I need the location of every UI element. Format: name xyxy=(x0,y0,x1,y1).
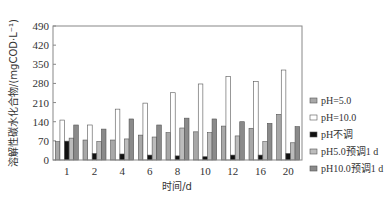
x-axis-ticks: 1246810121620 xyxy=(64,165,294,177)
x-tick-label: 8 xyxy=(175,165,181,177)
bar xyxy=(277,114,282,160)
bar xyxy=(129,119,134,160)
x-axis-label: 时间/d xyxy=(162,180,192,192)
legend-label: pH不调 xyxy=(321,129,353,140)
bar xyxy=(157,125,162,160)
legend-swatch xyxy=(310,115,317,120)
bar xyxy=(263,142,268,160)
bar xyxy=(97,142,102,160)
bar xyxy=(254,82,259,160)
bar xyxy=(286,153,291,160)
bar xyxy=(60,120,65,160)
y-tick-label: 280 xyxy=(33,77,50,89)
bar xyxy=(69,138,74,160)
x-tick-label: 12 xyxy=(227,165,238,177)
x-tick-label: 6 xyxy=(147,165,153,177)
y-tick-label: 350 xyxy=(33,58,50,70)
legend-label: pH5.0预调1 d xyxy=(321,146,378,157)
y-tick-label: 490 xyxy=(33,20,50,32)
x-tick-label: 20 xyxy=(283,165,295,177)
y-tick-label: 140 xyxy=(33,116,50,128)
bar xyxy=(249,128,254,160)
bar xyxy=(198,84,203,160)
bar xyxy=(88,125,93,160)
bar xyxy=(221,126,226,160)
bar xyxy=(74,125,79,160)
bar xyxy=(240,122,245,160)
bar xyxy=(65,141,70,160)
bar xyxy=(148,155,153,160)
bar xyxy=(226,77,231,160)
bar xyxy=(267,123,272,160)
bar xyxy=(258,155,263,160)
legend-swatch xyxy=(310,166,317,171)
legend-swatch xyxy=(310,132,317,137)
x-tick-label: 10 xyxy=(200,165,212,177)
bar xyxy=(281,70,286,160)
x-tick-label: 1 xyxy=(64,165,70,177)
x-tick-label: 4 xyxy=(119,165,125,177)
bar xyxy=(290,143,295,160)
x-tick-label: 16 xyxy=(255,165,267,177)
bar-series xyxy=(55,70,299,160)
bar xyxy=(83,140,88,160)
bar xyxy=(175,156,180,160)
y-tick-label: 0 xyxy=(44,154,50,166)
bar xyxy=(120,154,125,160)
y-axis-label: 溶解性碳水化合物/(mgCOD·L⁻¹) xyxy=(7,19,19,167)
bar xyxy=(92,153,97,160)
legend-swatch xyxy=(310,149,317,154)
x-tick-label: 2 xyxy=(92,165,98,177)
chart-canvas: 070140210280350420490 1246810121620 时间/d… xyxy=(0,0,391,201)
bar xyxy=(166,133,171,160)
y-tick-label: 70 xyxy=(38,135,50,147)
legend-label: pH10.0预调1 d xyxy=(321,163,383,174)
bar xyxy=(111,140,116,160)
bar xyxy=(143,103,148,160)
bar xyxy=(171,93,176,160)
bar xyxy=(115,109,120,160)
y-tick-label: 210 xyxy=(33,97,50,109)
bar xyxy=(138,135,143,160)
y-tick-label: 420 xyxy=(33,39,50,51)
bar xyxy=(231,155,236,160)
bar xyxy=(55,142,60,160)
bar xyxy=(207,133,212,160)
legend-label: pH=5.0 xyxy=(321,95,351,106)
legend: pH=5.0pH=10.0pH不调pH5.0预调1 dpH10.0预调1 d xyxy=(310,95,383,174)
bar xyxy=(295,127,300,160)
bar xyxy=(235,136,240,160)
bar xyxy=(152,137,157,160)
bar xyxy=(212,119,217,160)
legend-swatch xyxy=(310,98,317,103)
bar xyxy=(180,128,185,160)
bar xyxy=(101,129,106,160)
bar xyxy=(184,118,189,160)
legend-label: pH=10.0 xyxy=(321,112,356,123)
bar xyxy=(124,139,129,160)
y-axis-ticks: 070140210280350420490 xyxy=(33,20,57,166)
bar xyxy=(194,132,199,160)
